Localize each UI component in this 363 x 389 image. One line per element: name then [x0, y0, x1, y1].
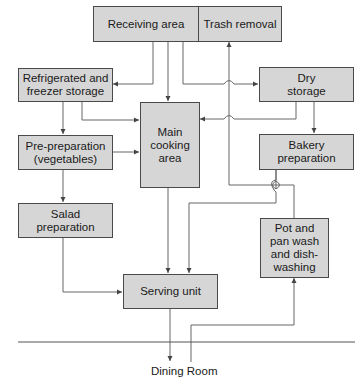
dining-room-label: Dining Room: [151, 365, 217, 377]
node-pot-pan-wash: Pot and pan wash and dish- washing: [260, 218, 329, 278]
node-refrigerated-storage: Refrigerated and freezer storage: [18, 68, 113, 102]
node-main-cooking-area: Main cooking area: [140, 102, 200, 188]
node-pre-preparation: Pre-preparation (vegetables): [18, 135, 113, 170]
node-trash-removal: Trash removal: [198, 6, 282, 42]
flow-diagram: Receiving area Trash removal Refrigerate…: [0, 0, 363, 389]
connector-lines: [0, 0, 363, 389]
node-receiving-area: Receiving area: [93, 6, 199, 42]
node-salad-preparation: Salad preparation: [18, 203, 113, 238]
node-serving-unit: Serving unit: [123, 274, 218, 309]
node-bakery-preparation: Bakery preparation: [259, 134, 354, 170]
node-dry-storage: Dry storage: [259, 67, 354, 102]
